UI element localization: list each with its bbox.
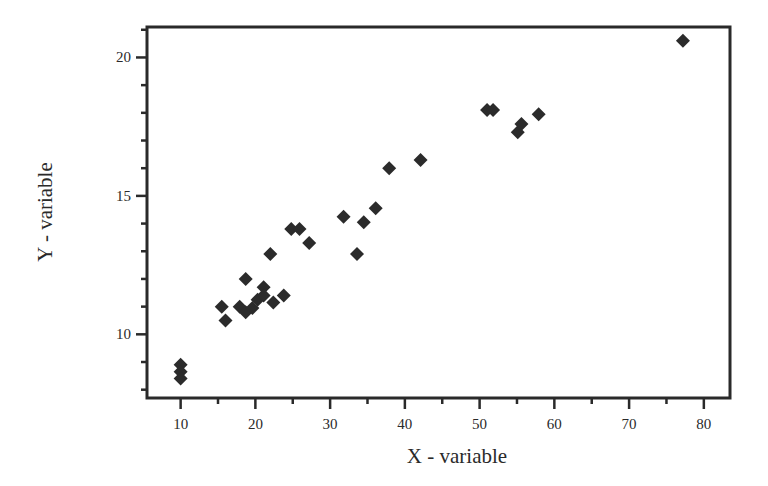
scatter-chart: 1020304050607080 101520 X - variable Y -… — [0, 0, 768, 486]
y-tick-label: 10 — [116, 326, 131, 342]
plot-border — [147, 27, 730, 398]
y-tick-label: 15 — [116, 188, 131, 204]
x-tick-label: 50 — [472, 416, 487, 432]
data-point-diamond — [263, 247, 277, 261]
y-tick-label: 20 — [116, 49, 131, 65]
x-axis-title: X - variable — [407, 444, 507, 468]
x-tick-label: 60 — [547, 416, 562, 432]
data-point-diamond — [292, 222, 306, 236]
data-point-diamond — [218, 313, 232, 327]
data-point-diamond — [382, 161, 396, 175]
y-axis-title: Y - variable — [33, 162, 57, 262]
x-tick-label: 20 — [248, 416, 263, 432]
x-tick-label: 10 — [173, 416, 188, 432]
data-point-diamond — [337, 210, 351, 224]
x-axis: 1020304050607080 — [173, 398, 711, 432]
data-point-diamond — [532, 107, 546, 121]
data-point-diamond — [350, 247, 364, 261]
y-axis: 101520 — [116, 30, 147, 390]
data-point-diamond — [277, 289, 291, 303]
data-point-diamond — [414, 153, 428, 167]
data-point-diamond — [215, 300, 229, 314]
x-tick-label: 70 — [622, 416, 637, 432]
data-point-diamond — [369, 201, 383, 215]
data-points — [174, 34, 690, 386]
x-tick-label: 80 — [696, 416, 711, 432]
plot-frame — [147, 27, 730, 398]
data-point-diamond — [676, 34, 690, 48]
data-point-diamond — [357, 215, 371, 229]
x-tick-label: 40 — [397, 416, 412, 432]
data-point-diamond — [302, 236, 316, 250]
data-point-diamond — [239, 272, 253, 286]
x-tick-label: 30 — [323, 416, 338, 432]
